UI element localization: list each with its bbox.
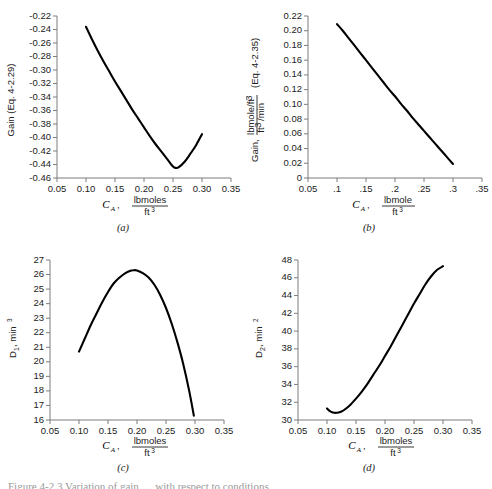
- plot-b-axes: [304, 16, 482, 182]
- x-axis-comma-a: ,: [117, 199, 120, 210]
- x-axis-sub-d: A: [356, 446, 362, 454]
- x-axis-den-exp-a: 3: [151, 206, 155, 213]
- chart-svg-d: 303234363840424446480.050.100.150.200.25…: [246, 244, 492, 466]
- svg-text:0.35: 0.35: [215, 425, 234, 436]
- panel-letter-b: (b): [246, 222, 492, 233]
- svg-text:23: 23: [33, 312, 44, 323]
- svg-text:0.08: 0.08: [284, 113, 303, 124]
- plot-b-ylabel: Gain, lbmole/ft 3 ft 3 /min (Eq. 4-2.35): [246, 38, 266, 162]
- y-axis-rest-d: , min: [253, 326, 264, 347]
- svg-text:-0.36: -0.36: [29, 104, 51, 115]
- plot-d-ticklabels: 303234363840424446480.050.100.150.200.25…: [281, 254, 481, 437]
- y-axis-exp-c: 3: [6, 318, 13, 322]
- svg-text:44: 44: [281, 289, 292, 300]
- figure-container: -0.22-0.24-0.26-0.28-0.30-0.32-0.34-0.36…: [0, 0, 492, 489]
- svg-text:18: 18: [33, 384, 44, 395]
- plot-b-ticklabels: 00.020.040.060.080.100.120.140.160.180.2…: [284, 10, 489, 195]
- x-axis-var-a: C: [102, 198, 110, 210]
- x-axis-numerator-c: lbmoles: [134, 435, 167, 446]
- svg-text:20: 20: [33, 355, 44, 366]
- svg-text:16: 16: [33, 414, 44, 425]
- chart-panel-d: 303234363840424446480.050.100.150.200.25…: [246, 244, 492, 484]
- svg-text:42: 42: [281, 307, 292, 318]
- svg-text:0.05: 0.05: [48, 183, 67, 194]
- panel-letter-d: (d): [246, 462, 492, 473]
- svg-text:0.30: 0.30: [193, 183, 212, 194]
- x-axis-sub-a: A: [110, 205, 116, 213]
- svg-text:0.12: 0.12: [284, 83, 303, 94]
- plot-d-xlabel: C A , lbmoles ft 3: [348, 435, 414, 458]
- x-axis-numerator-a: lbmoles: [134, 194, 167, 205]
- svg-text:48: 48: [281, 254, 292, 265]
- svg-text:0.10: 0.10: [318, 425, 337, 436]
- plot-a-xlabel: C A , lbmoles ft 3: [102, 194, 168, 217]
- svg-text:40: 40: [281, 325, 292, 336]
- plot-c-ticklabels: 1617181920212223242526270.050.100.150.20…: [33, 254, 233, 437]
- svg-text:-0.24: -0.24: [29, 23, 51, 34]
- svg-text:-0.28: -0.28: [29, 50, 51, 61]
- x-axis-comma-b: ,: [367, 199, 370, 210]
- svg-text:.2: .2: [391, 183, 399, 194]
- svg-text:-0.40: -0.40: [29, 131, 51, 142]
- x-axis-var-d: C: [348, 439, 356, 451]
- svg-text:38: 38: [281, 342, 292, 353]
- svg-text:0.35: 0.35: [222, 183, 241, 194]
- svg-text:.15: .15: [359, 183, 372, 194]
- panel-letter-a: (a): [0, 222, 246, 233]
- svg-text:.25: .25: [417, 183, 430, 194]
- plot-a-ticklabels: -0.22-0.24-0.26-0.28-0.30-0.32-0.34-0.36…: [29, 10, 240, 195]
- svg-text:32: 32: [281, 396, 292, 407]
- x-axis-comma-c: ,: [117, 440, 120, 451]
- y-axis-den-exp-b: 3: [252, 122, 263, 127]
- x-axis-var-b: C: [352, 198, 360, 210]
- svg-text:0.35: 0.35: [463, 425, 482, 436]
- svg-text:-0.46: -0.46: [29, 172, 51, 183]
- svg-text:0.02: 0.02: [284, 157, 303, 168]
- data-curve-a: [86, 27, 202, 168]
- svg-text:0.15: 0.15: [99, 425, 118, 436]
- svg-text:25: 25: [33, 283, 44, 294]
- figure-caption: Figure 4-2.3 Variation of gain, ... with…: [8, 480, 484, 489]
- svg-text:21: 21: [33, 341, 44, 352]
- svg-text:0.22: 0.22: [284, 10, 303, 21]
- svg-text:46: 46: [281, 271, 292, 282]
- svg-text:27: 27: [33, 254, 44, 265]
- svg-text:17: 17: [33, 399, 44, 410]
- svg-text:0.15: 0.15: [106, 183, 125, 194]
- x-axis-den-exp-b: 3: [399, 206, 403, 213]
- chart-svg-c: 1617181920212223242526270.050.100.150.20…: [0, 244, 246, 466]
- svg-text:0.30: 0.30: [186, 425, 205, 436]
- x-axis-den-exp-d: 3: [397, 447, 401, 454]
- x-axis-denominator-b: ft: [392, 206, 398, 217]
- svg-text:30: 30: [281, 414, 292, 425]
- svg-text:0.20: 0.20: [284, 24, 303, 35]
- x-axis-denominator-d: ft: [390, 447, 396, 458]
- svg-text:0.25: 0.25: [164, 183, 183, 194]
- panel-letter-c: (c): [0, 462, 246, 473]
- svg-text:-0.42: -0.42: [29, 145, 51, 156]
- svg-text:0.10: 0.10: [77, 183, 96, 194]
- svg-text:34: 34: [281, 378, 292, 389]
- svg-text:26: 26: [33, 268, 44, 279]
- svg-text:0.15: 0.15: [347, 425, 366, 436]
- chart-panel-a: -0.22-0.24-0.26-0.28-0.30-0.32-0.34-0.36…: [0, 0, 246, 244]
- svg-text:-0.34: -0.34: [29, 91, 51, 102]
- y-axis-prefix-c: D: [7, 351, 18, 358]
- y-axis-prefix-d: D: [253, 351, 264, 358]
- y-axis-exp-d: 2: [252, 318, 259, 322]
- x-axis-den-exp-c: 3: [151, 447, 155, 454]
- data-curve-b: [337, 24, 453, 164]
- svg-text:.3: .3: [449, 183, 457, 194]
- y-axis-num-exp-b: 3: [246, 95, 254, 100]
- x-axis-denominator-a: ft: [144, 206, 150, 217]
- svg-text:0.10: 0.10: [70, 425, 89, 436]
- svg-text:.35: .35: [475, 183, 488, 194]
- svg-text:0.05: 0.05: [41, 425, 60, 436]
- x-axis-denominator-c: ft: [144, 447, 150, 458]
- svg-text:0.18: 0.18: [284, 39, 303, 50]
- svg-text:19: 19: [33, 370, 44, 381]
- plot-d-axes: [294, 260, 472, 424]
- x-axis-comma-d: ,: [363, 440, 366, 451]
- chart-panel-c: 1617181920212223242526270.050.100.150.20…: [0, 244, 246, 484]
- y-axis-prefix-b: Gain,: [249, 139, 260, 162]
